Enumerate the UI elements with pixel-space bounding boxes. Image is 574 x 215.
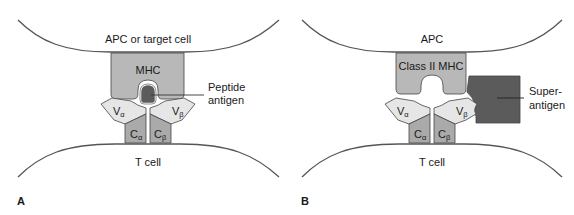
panel-b: APC Class II MHC Super- antigen Vα Vβ Cα… <box>301 20 565 207</box>
panel-label-b: B <box>301 195 309 207</box>
t-cell-label-b: T cell <box>419 156 445 168</box>
peptide-antigen <box>140 84 156 104</box>
apc-label-b: APC <box>421 33 444 45</box>
t-cell-label-a: T cell <box>135 156 161 168</box>
apc-label-a: APC or target cell <box>105 33 191 45</box>
superantigen <box>467 76 520 123</box>
peptide-label-line1: Peptide <box>208 81 245 93</box>
superantigen-label-line2: antigen <box>529 99 565 111</box>
panel-a: APC or target cell MHC Peptide antigen V… <box>17 20 279 207</box>
peptide-label-line2: antigen <box>208 94 244 106</box>
class-ii-mhc-label: Class II MHC <box>399 60 464 72</box>
panel-label-a: A <box>17 195 25 207</box>
tcr-mhc-diagram: APC or target cell MHC Peptide antigen V… <box>0 0 574 215</box>
mhc-label-a: MHC <box>135 64 160 76</box>
superantigen-label-line1: Super- <box>529 85 562 97</box>
